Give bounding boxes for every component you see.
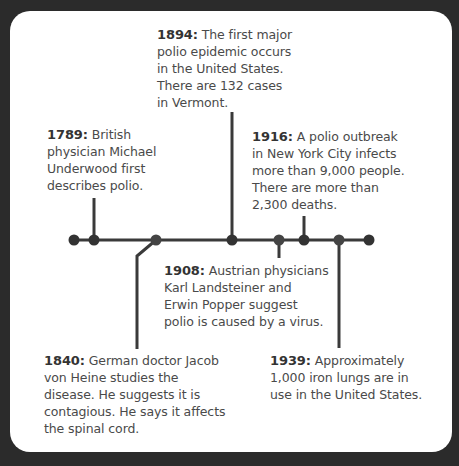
event-1789: 1789: British physician Michael Underwoo… — [47, 126, 156, 194]
event-1840: 1840: German doctor Jacob von Heine stud… — [44, 352, 225, 437]
event-year: 1840: — [44, 353, 85, 368]
timeline-start-dot — [69, 235, 80, 246]
dot-1939 — [334, 235, 345, 246]
event-year: 1916: — [252, 129, 293, 144]
dot-1916 — [299, 235, 310, 246]
event-year: 1908: — [164, 263, 205, 278]
dot-1789 — [89, 235, 100, 246]
event-1908: 1908: Austrian physicians Karl Landstein… — [164, 262, 329, 330]
dot-1840 — [151, 235, 162, 246]
dot-1908 — [274, 235, 285, 246]
dot-1894 — [227, 235, 238, 246]
event-year: 1894: — [157, 27, 198, 42]
event-year: 1939: — [270, 353, 311, 368]
connector-1840 — [137, 240, 156, 349]
timeline-end-dot — [364, 235, 375, 246]
event-1939: 1939: Approximately 1,000 iron lungs are… — [270, 352, 422, 403]
event-1916: 1916: A polio outbreak in New York City … — [252, 128, 405, 213]
event-1894: 1894: The first major polio epidemic occ… — [157, 26, 292, 111]
event-year: 1789: — [47, 127, 88, 142]
